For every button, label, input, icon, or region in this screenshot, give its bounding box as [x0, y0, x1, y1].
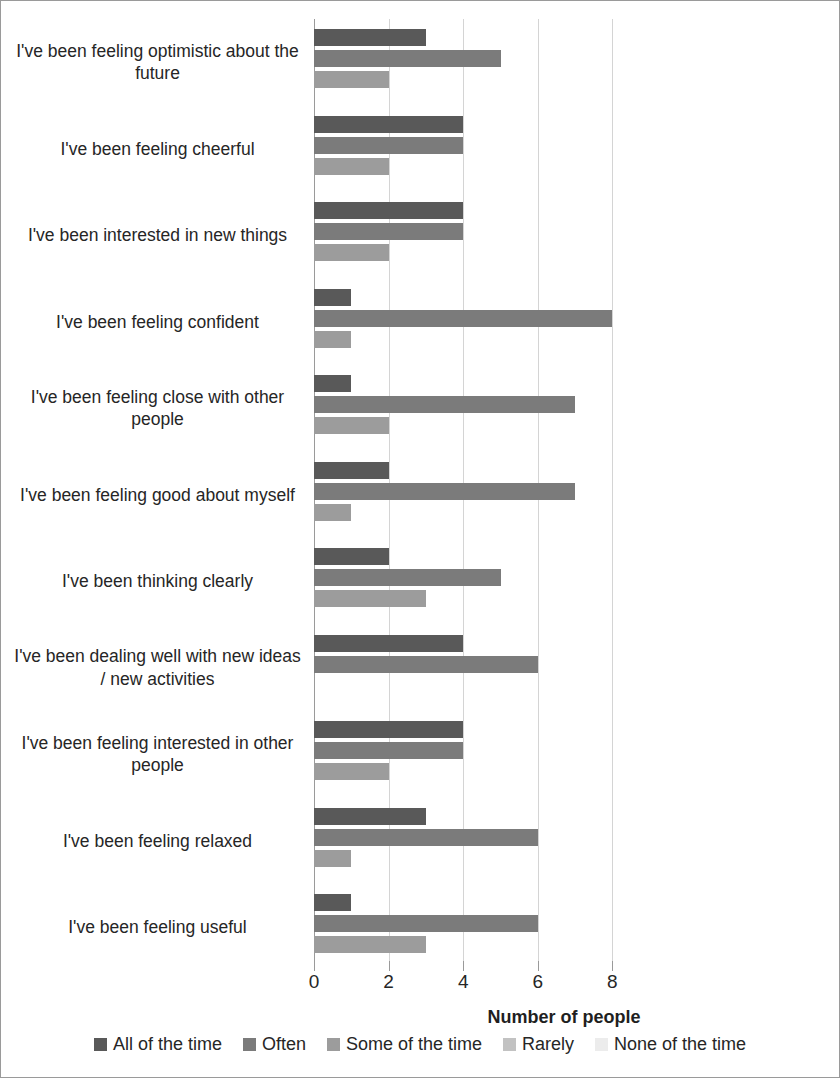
- bar: [314, 116, 463, 133]
- bar: [314, 158, 389, 175]
- legend-label: Rarely: [522, 1034, 574, 1055]
- bar-group: [314, 711, 814, 798]
- category-label: I've been feeling relaxed: [9, 798, 306, 885]
- bar-group: [314, 19, 814, 106]
- bar: [314, 590, 426, 607]
- category-label: I've been feeling interested in other pe…: [9, 711, 306, 798]
- bar: [314, 742, 463, 759]
- category-label: I've been thinking clearly: [9, 538, 306, 625]
- category-label: I've been feeling optimistic about the f…: [9, 19, 306, 106]
- category-label: I've been feeling good about myself: [9, 452, 306, 539]
- plot-area: [314, 19, 814, 971]
- bar: [314, 808, 426, 825]
- bar: [314, 202, 463, 219]
- legend-item[interactable]: Rarely: [503, 1034, 574, 1055]
- legend-label: None of the time: [614, 1034, 746, 1055]
- bar: [314, 137, 463, 154]
- bar: [314, 763, 389, 780]
- category-label: I've been feeling close with other peopl…: [9, 365, 306, 452]
- bar: [314, 548, 389, 565]
- x-tick-label: 0: [309, 971, 320, 993]
- legend-label: Often: [262, 1034, 306, 1055]
- bar: [314, 829, 538, 846]
- bar-group: [314, 884, 814, 971]
- bar: [314, 462, 389, 479]
- chart-legend: All of the timeOftenSome of the timeRare…: [1, 1034, 839, 1055]
- legend-swatch-icon: [327, 1038, 340, 1051]
- bar: [314, 936, 426, 953]
- legend-item[interactable]: All of the time: [94, 1034, 222, 1055]
- category-axis-labels: I've been feeling optimistic about the f…: [9, 19, 306, 971]
- x-axis-title: Number of people: [314, 1007, 814, 1028]
- tickmark-2: [389, 961, 390, 971]
- bar: [314, 721, 463, 738]
- x-tick-label: 8: [607, 971, 618, 993]
- x-tick-label: 6: [533, 971, 544, 993]
- bar: [314, 635, 463, 652]
- tickmark-8: [612, 961, 613, 971]
- bar: [314, 396, 575, 413]
- bar: [314, 50, 501, 67]
- category-label: I've been feeling confident: [9, 279, 306, 366]
- bar: [314, 289, 351, 306]
- chart-frame: I've been feeling optimistic about the f…: [0, 0, 840, 1078]
- legend-swatch-icon: [94, 1038, 107, 1051]
- bar: [314, 71, 389, 88]
- bar: [314, 915, 538, 932]
- category-label: I've been feeling useful: [9, 884, 306, 971]
- bar: [314, 375, 351, 392]
- bar-group: [314, 452, 814, 539]
- bar-group: [314, 538, 814, 625]
- bar-group: [314, 625, 814, 712]
- bar: [314, 504, 351, 521]
- bar: [314, 331, 351, 348]
- bar: [314, 417, 389, 434]
- legend-item[interactable]: None of the time: [595, 1034, 746, 1055]
- legend-item[interactable]: Some of the time: [327, 1034, 482, 1055]
- bar: [314, 894, 351, 911]
- legend-swatch-icon: [243, 1038, 256, 1051]
- bar-group: [314, 192, 814, 279]
- x-axis-ticks: 02468: [314, 971, 814, 1005]
- bar-groups: [314, 19, 814, 971]
- category-label: I've been feeling cheerful: [9, 106, 306, 193]
- bar: [314, 244, 389, 261]
- bar-group: [314, 798, 814, 885]
- bar: [314, 569, 501, 586]
- tickmark-6: [538, 961, 539, 971]
- legend-item[interactable]: Often: [243, 1034, 306, 1055]
- bar-group: [314, 106, 814, 193]
- legend-swatch-icon: [595, 1038, 608, 1051]
- legend-label: All of the time: [113, 1034, 222, 1055]
- category-label: I've been dealing well with new ideas / …: [9, 625, 306, 712]
- bar: [314, 656, 538, 673]
- tickmark-4: [463, 961, 464, 971]
- legend-swatch-icon: [503, 1038, 516, 1051]
- x-tick-label: 4: [458, 971, 469, 993]
- bar: [314, 223, 463, 240]
- bar-group: [314, 279, 814, 366]
- category-label: I've been interested in new things: [9, 192, 306, 279]
- bar: [314, 310, 612, 327]
- bar-group: [314, 365, 814, 452]
- legend-label: Some of the time: [346, 1034, 482, 1055]
- tickmark-0: [314, 961, 315, 971]
- bar: [314, 29, 426, 46]
- bar: [314, 483, 575, 500]
- bar: [314, 850, 351, 867]
- x-tick-label: 2: [383, 971, 394, 993]
